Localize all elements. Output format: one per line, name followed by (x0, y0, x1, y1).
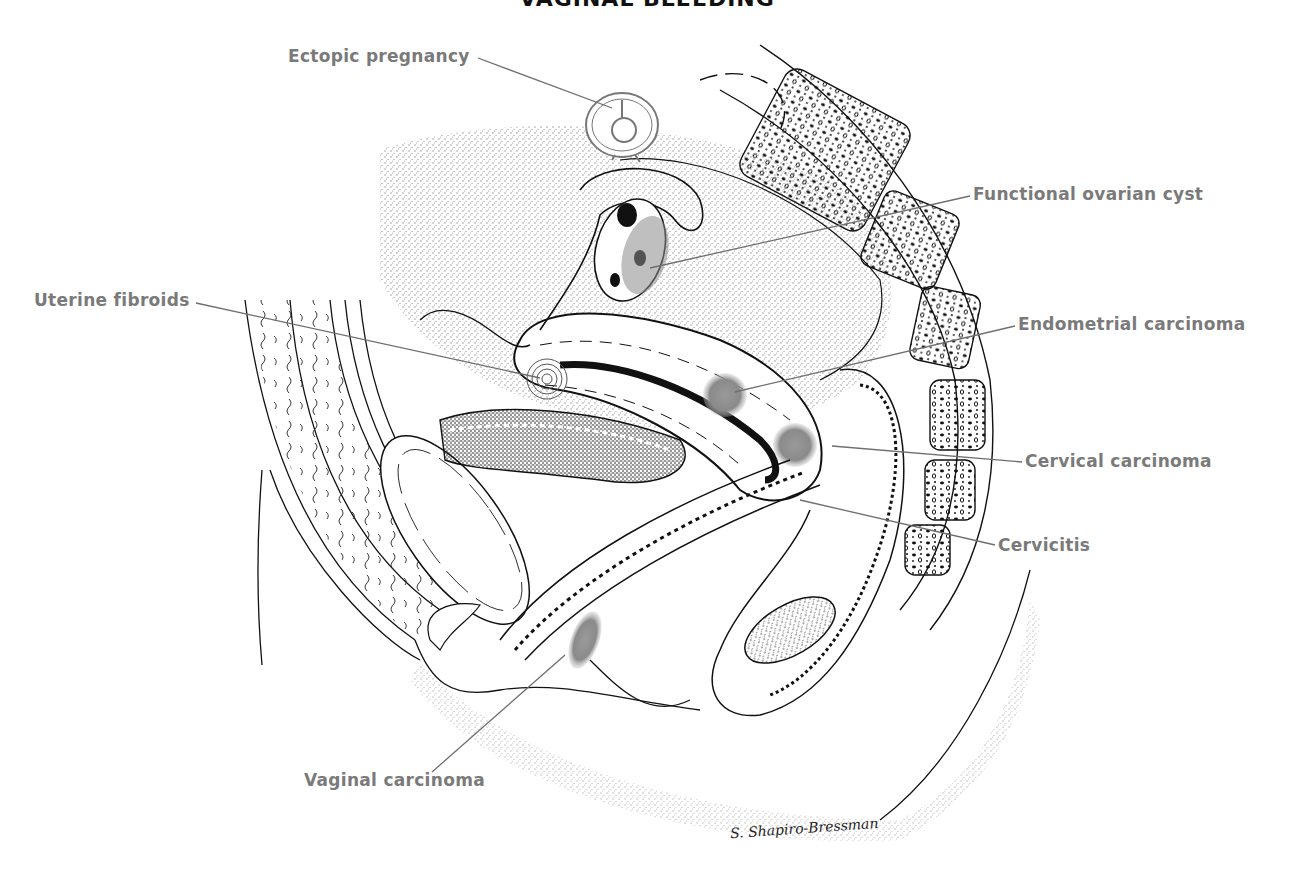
label-endometrial-carcinoma: Endometrial carcinoma (1018, 314, 1245, 334)
leader-cervical (832, 446, 1022, 462)
vaginal-lesion (562, 607, 609, 673)
anatomical-illustration (0, 0, 1294, 883)
label-cervicitis: Cervicitis (998, 535, 1090, 555)
label-functional-ovarian-cyst: Functional ovarian cyst (973, 184, 1203, 204)
cervical-lesion (773, 423, 817, 467)
label-cervical-carcinoma: Cervical carcinoma (1025, 451, 1212, 471)
label-vaginal-carcinoma: Vaginal carcinoma (304, 770, 485, 790)
label-ectopic-pregnancy: Ectopic pregnancy (288, 46, 470, 66)
label-uterine-fibroids: Uterine fibroids (34, 290, 190, 310)
endometrial-lesion (703, 373, 747, 417)
leader-ectopic (478, 58, 612, 108)
